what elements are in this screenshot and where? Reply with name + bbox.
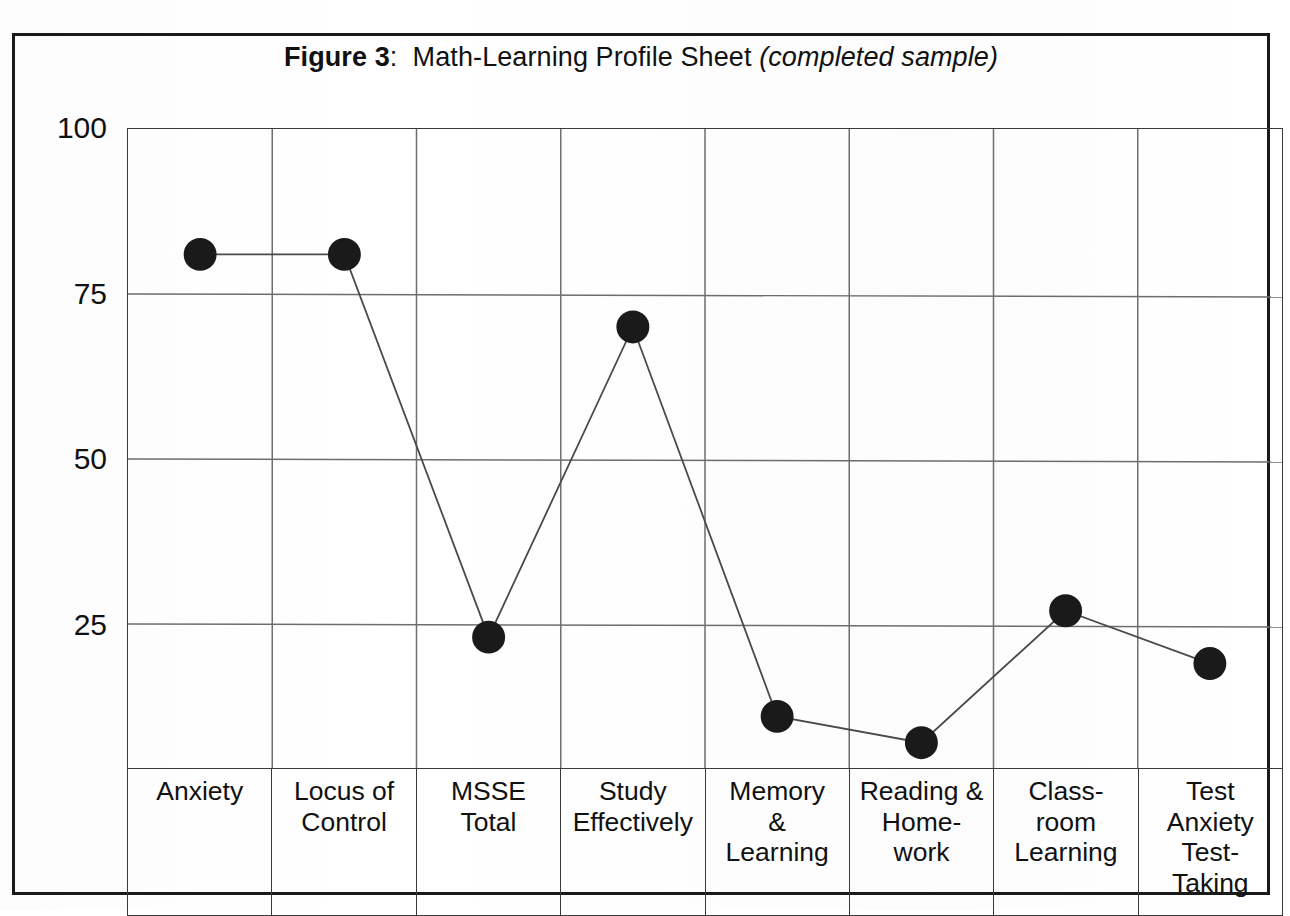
x-axis-label-line: Total bbox=[460, 807, 516, 837]
x-axis-label: Anxiety bbox=[156, 776, 243, 807]
x-axis-label-line: Class- bbox=[1028, 776, 1103, 806]
y-axis-tick-labels: 100755025 bbox=[15, 36, 115, 892]
data-point-marker[interactable]: Memory & Learning: 11 bbox=[761, 700, 794, 733]
x-label-cell: StudyEffectively bbox=[561, 769, 705, 915]
x-axis-label: TestAnxietyTest-Taking bbox=[1167, 776, 1254, 899]
x-axis-label-line: Anxiety bbox=[1167, 807, 1254, 837]
x-axis-label-line: work bbox=[894, 837, 950, 867]
x-axis-label-line: Anxiety bbox=[156, 776, 243, 806]
data-point-marker[interactable]: Reading & Home-work: 7 bbox=[905, 726, 938, 759]
x-axis-label-line: Effectively bbox=[573, 807, 693, 837]
data-point-marker[interactable]: Class-room Learning: 27 bbox=[1049, 594, 1082, 627]
x-axis-label-line: Learning bbox=[1014, 837, 1117, 867]
data-point-marker[interactable]: Test Anxiety Test-Taking: 19 bbox=[1193, 647, 1226, 680]
x-axis-label-line: MSSE bbox=[451, 776, 526, 806]
x-axis-label: Class-roomLearning bbox=[1014, 776, 1117, 868]
x-label-cell: MSSETotal bbox=[417, 769, 561, 915]
x-label-cell: Reading &Home-work bbox=[850, 769, 994, 915]
x-label-cell: Locus ofControl bbox=[272, 769, 416, 915]
x-axis-category-labels: AnxietyLocus ofControlMSSETotalStudyEffe… bbox=[127, 769, 1283, 916]
figure-title: Figure 3: Math-Learning Profile Sheet (c… bbox=[15, 42, 1267, 73]
y-tick-label: 25 bbox=[74, 608, 107, 642]
x-axis-label-line: Taking bbox=[1172, 868, 1249, 898]
x-axis-label-line: Memory bbox=[729, 776, 825, 806]
y-tick-label: 50 bbox=[74, 442, 107, 476]
plot-area: Anxiety: 81Locus of Control: 81MSSE Tota… bbox=[127, 128, 1283, 769]
x-axis-label-line: Study bbox=[599, 776, 667, 806]
data-series-line: Anxiety: 81Locus of Control: 81MSSE Tota… bbox=[128, 129, 1282, 768]
x-label-cell: Memory&Learning bbox=[706, 769, 850, 915]
x-label-cell: Class-roomLearning bbox=[994, 769, 1138, 915]
x-label-cell: Anxiety bbox=[128, 769, 272, 915]
data-point-marker[interactable]: Study Effectively: 70 bbox=[616, 311, 649, 344]
y-tick-label: 100 bbox=[57, 111, 107, 145]
x-axis-label: MSSETotal bbox=[451, 776, 526, 837]
data-point-marker[interactable]: Anxiety: 81 bbox=[184, 238, 217, 271]
x-label-cell: TestAnxietyTest-Taking bbox=[1139, 769, 1282, 915]
x-axis-label-line: Test bbox=[1186, 776, 1235, 806]
x-axis-label-line: Control bbox=[301, 807, 386, 837]
x-axis-label-line: Home- bbox=[882, 807, 962, 837]
x-axis-label-line: & bbox=[768, 807, 786, 837]
x-axis-label: Locus ofControl bbox=[294, 776, 394, 837]
x-axis-label-line: Reading & bbox=[860, 776, 984, 806]
figure-frame: Figure 3: Math-Learning Profile Sheet (c… bbox=[12, 33, 1270, 895]
x-axis-label: StudyEffectively bbox=[573, 776, 693, 837]
x-axis-label: Memory&Learning bbox=[726, 776, 829, 868]
x-axis-label-line: Test- bbox=[1182, 837, 1239, 867]
figure-title-main: Math-Learning Profile Sheet bbox=[413, 42, 752, 72]
y-tick-label: 75 bbox=[74, 277, 107, 311]
x-axis-label-line: Locus of bbox=[294, 776, 394, 806]
x-axis-label-line: Learning bbox=[726, 837, 829, 867]
x-axis-label-line: room bbox=[1036, 807, 1096, 837]
data-point-marker[interactable]: MSSE Total: 23 bbox=[472, 621, 505, 654]
x-axis-label: Reading &Home-work bbox=[860, 776, 984, 868]
figure-title-parenthetical: (completed sample) bbox=[759, 42, 998, 72]
figure-title-separator: : bbox=[390, 42, 398, 72]
data-point-marker[interactable]: Locus of Control: 81 bbox=[328, 238, 361, 271]
figure-number-label: Figure 3 bbox=[284, 42, 390, 72]
series-polyline bbox=[200, 254, 1210, 742]
